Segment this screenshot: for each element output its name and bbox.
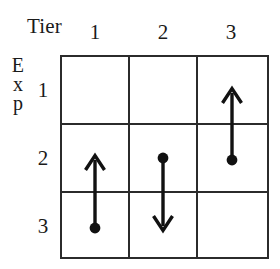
grid-diagram: Tier E x p 1 2 3 1 2 3 — [0, 0, 280, 269]
arrow-col2-dot — [158, 153, 169, 164]
arrow-col1-dot — [90, 223, 101, 234]
arrow-col1 — [86, 156, 105, 234]
arrow-col3-dot — [227, 155, 238, 166]
grid-canvas — [0, 0, 280, 269]
arrow-col3 — [223, 89, 242, 166]
